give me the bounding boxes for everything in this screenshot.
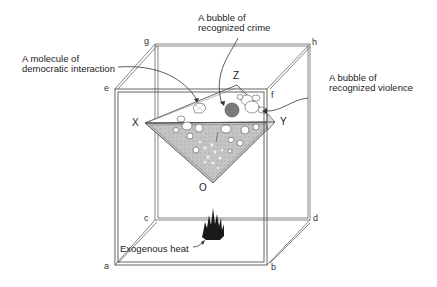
- label-crime: A bubble of recognized crime: [198, 13, 270, 33]
- point-y: Y: [280, 116, 287, 127]
- inverted-pyramid: [145, 85, 275, 183]
- label-heat: Exogenous heat: [120, 244, 189, 254]
- vertex-c: c: [144, 213, 149, 223]
- vertex-g: g: [144, 36, 149, 46]
- vertex-a: a: [104, 261, 109, 271]
- point-x: X: [132, 117, 139, 128]
- point-o: O: [199, 182, 207, 193]
- flame-icon: [202, 208, 224, 240]
- point-z: Z: [233, 70, 239, 81]
- vertex-e: e: [104, 83, 109, 93]
- vertex-d: d: [313, 213, 318, 223]
- vertex-h: h: [312, 37, 317, 47]
- crime-bubble: [225, 103, 239, 117]
- vertex-f: f: [271, 90, 274, 100]
- diagram-canvas: [0, 0, 437, 287]
- label-violence: A bubble of recognized violence: [329, 73, 413, 93]
- label-molecule: A molecule of democratic interaction: [22, 54, 115, 74]
- vertex-b: b: [271, 262, 276, 272]
